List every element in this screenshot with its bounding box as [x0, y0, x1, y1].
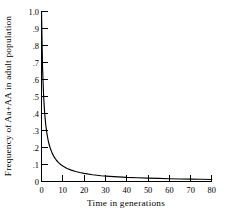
- chart-plot: 1.0 .9 .8 .7 .6 .5 .4 .3 .2 .1 0 0 10 20…: [0, 0, 228, 222]
- x-tick-label: 60: [165, 186, 173, 195]
- x-tick-label: 50: [144, 186, 152, 195]
- x-axis-title: Time in generations: [87, 198, 165, 208]
- x-tick-label: 0: [39, 186, 43, 195]
- y-tick-label: .7: [33, 59, 39, 68]
- y-tick-label: .5: [33, 93, 39, 102]
- y-axis-title: Frequency of Aa+AA in adult population: [3, 16, 13, 177]
- x-tick-label: 20: [80, 186, 88, 195]
- x-tick-label: 10: [59, 186, 67, 195]
- y-axis-tick-labels: 1.0 .9 .8 .7 .6 .5 .4 .3 .2 .1 0: [29, 8, 40, 187]
- x-tick-label: 70: [187, 186, 195, 195]
- y-tick-label: .2: [33, 144, 39, 153]
- x-tick-label: 80: [208, 186, 216, 195]
- data-series-line: [42, 12, 212, 180]
- y-tick-label: .8: [33, 42, 39, 51]
- y-tick-label: 1.0: [29, 8, 39, 17]
- y-tick-label: 0: [35, 178, 39, 187]
- figure-container: 1.0 .9 .8 .7 .6 .5 .4 .3 .2 .1 0 0 10 20…: [0, 0, 228, 222]
- x-axis-tick-labels: 0 10 20 30 40 50 60 70 80: [39, 186, 216, 195]
- y-tick-label: .9: [33, 25, 39, 34]
- x-tick-label: 30: [101, 186, 109, 195]
- y-tick-label: .6: [33, 76, 39, 85]
- y-tick-label: .3: [33, 127, 39, 136]
- y-tick-label: .1: [33, 161, 39, 170]
- y-tick-label: .4: [33, 110, 40, 119]
- x-tick-label: 40: [123, 186, 131, 195]
